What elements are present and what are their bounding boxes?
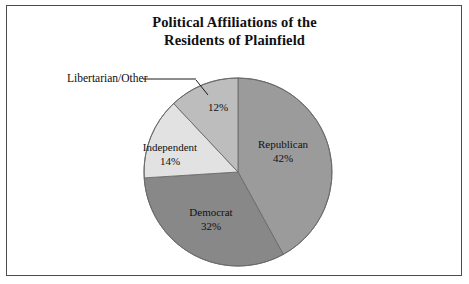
pie-plot-area xyxy=(0,0,469,284)
slice-label-democrat: Democrat xyxy=(173,206,249,220)
slice-percent-democrat: 32% xyxy=(173,220,249,234)
slice-callout-libertarian-other: Libertarian/Other xyxy=(67,72,147,85)
slice-label-independent: Independent xyxy=(128,141,212,155)
slice-percent-independent: 14% xyxy=(128,155,212,169)
pie-chart-figure: Political Affiliations of the Residents … xyxy=(0,0,469,284)
slice-label-republican: Republican xyxy=(243,138,323,152)
slice-percent-republican: 42% xyxy=(243,152,323,166)
slice-label-group-independent: Independent 14% xyxy=(128,141,212,168)
slice-label-libertarian-other: Libertarian/Other xyxy=(67,72,147,84)
slice-label-group-democrat: Democrat 32% xyxy=(173,206,249,233)
slice-value-libertarian-other: 12% xyxy=(195,101,241,115)
slice-percent-libertarian-other: 12% xyxy=(195,101,241,115)
slice-label-group-republican: Republican 42% xyxy=(243,138,323,165)
